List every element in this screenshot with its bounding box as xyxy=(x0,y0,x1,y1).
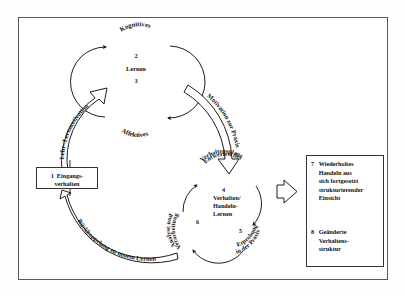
box-geaenderte-verhaltensstruktur: 8 Geänderte Verhaltens- struktur xyxy=(311,228,383,254)
bottom-cycle-center: Verhalten/ Handeln- Lernen xyxy=(213,194,269,217)
label-lehr-lernmotivation: Lehr-/Lernmotivation xyxy=(58,102,90,160)
top-cycle-number-3: 3 xyxy=(104,77,168,84)
box7-line2: Handeln aus xyxy=(319,169,364,178)
box1-line2: verhalten xyxy=(37,180,97,188)
box8-line1: Geänderte xyxy=(319,228,349,237)
diagram-canvas: Kognitives Affektives Entwerfen des Verh… xyxy=(0,0,405,296)
top-cycle-number-2: 2 xyxy=(104,52,168,59)
box8-line3: struktur xyxy=(319,245,349,254)
box1-number: 1 xyxy=(51,172,54,179)
box7-line4: strukturierender xyxy=(319,186,364,195)
top-cycle-center: 2 Lernen 3 xyxy=(104,47,168,90)
box8-line2: Verhaltens- xyxy=(319,237,349,246)
top-cycle-label-lernen: Lernen xyxy=(104,65,168,72)
box7-line1: Wiederholtes xyxy=(319,160,364,169)
bottom-cycle-number-4: 4 xyxy=(222,186,225,193)
label-kognitives: Kognitives xyxy=(118,20,152,32)
box8-number: 8 xyxy=(311,228,314,235)
box1-line1: Eingangs- xyxy=(57,172,83,179)
bottom-cycle-line-2: Handeln- xyxy=(213,202,269,210)
bottom-cycle-line-1: Verhalten/ xyxy=(213,194,269,202)
bottom-cycle-number-6: 6 xyxy=(196,218,199,225)
svg-text:Kognitives: Kognitives xyxy=(118,20,152,32)
box7-number: 7 xyxy=(311,160,314,167)
box-wiederholtes-handeln: 7 Wiederholtes Handeln aus sich fortgese… xyxy=(311,160,383,203)
bottom-cycle-line-3: Lernen xyxy=(213,210,269,218)
transfer-chevron-arrow xyxy=(277,180,297,203)
box7-line3: sich fortgesetzt xyxy=(319,177,364,186)
bottom-cycle-number-5: 5 xyxy=(239,227,242,234)
box-eingangsverhalten: 1 Eingangs- verhalten xyxy=(36,167,98,189)
label-affektives: Affektives xyxy=(121,127,150,138)
svg-text:Rückkoppelung zu neuem Lernen: Rückkoppelung zu neuem Lernen xyxy=(76,217,156,261)
box7-line5: Einsicht xyxy=(319,194,364,203)
svg-text:Lehr-/Lernmotivation: Lehr-/Lernmotivation xyxy=(58,102,90,160)
label-rueckkoppelung: Rückkoppelung zu neuem Lernen xyxy=(76,217,156,261)
svg-text:Affektives: Affektives xyxy=(121,127,150,138)
